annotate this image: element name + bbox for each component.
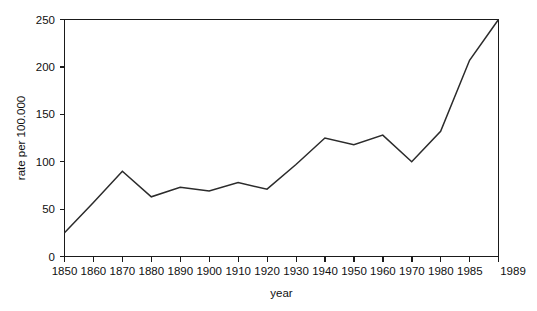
x-tick-label-1985: 1985 — [457, 265, 483, 277]
y-tick-label-100: 100 — [36, 156, 55, 168]
x-tick-label-1920: 1920 — [254, 265, 280, 277]
x-axis-tick-labels: 1850 1860 1870 1880 1890 1900 1910 1920 … — [52, 265, 526, 277]
x-tick-label-1980: 1980 — [428, 265, 454, 277]
x-tick-label-1989: 1989 — [500, 265, 526, 277]
y-axis-ticks — [60, 20, 65, 257]
y-tick-label-50: 50 — [42, 203, 55, 215]
x-tick-label-1870: 1870 — [110, 265, 136, 277]
x-tick-label-1950: 1950 — [341, 265, 367, 277]
data-series-line — [65, 20, 499, 233]
x-axis-title: year — [270, 287, 293, 299]
y-tick-label-200: 200 — [36, 61, 55, 73]
line-chart: 0 50 100 150 200 250 — [0, 0, 537, 311]
x-tick-label-1860: 1860 — [81, 265, 107, 277]
x-tick-label-1890: 1890 — [168, 265, 194, 277]
x-tick-label-1900: 1900 — [196, 265, 222, 277]
y-tick-label-0: 0 — [49, 251, 55, 263]
chart-figure: 0 50 100 150 200 250 — [0, 0, 537, 311]
x-tick-label-1930: 1930 — [283, 265, 309, 277]
x-tick-label-1880: 1880 — [139, 265, 165, 277]
x-tick-label-1970: 1970 — [399, 265, 425, 277]
x-tick-label-1960: 1960 — [370, 265, 396, 277]
y-tick-label-250: 250 — [36, 14, 55, 26]
x-tick-label-1850: 1850 — [52, 265, 78, 277]
y-axis-tick-labels: 0 50 100 150 200 250 — [36, 14, 55, 263]
x-axis-ticks — [65, 257, 499, 263]
y-axis-title: rate per 100.000 — [15, 96, 27, 180]
x-tick-label-1910: 1910 — [225, 265, 251, 277]
x-tick-label-1940: 1940 — [312, 265, 338, 277]
y-tick-label-150: 150 — [36, 108, 55, 120]
